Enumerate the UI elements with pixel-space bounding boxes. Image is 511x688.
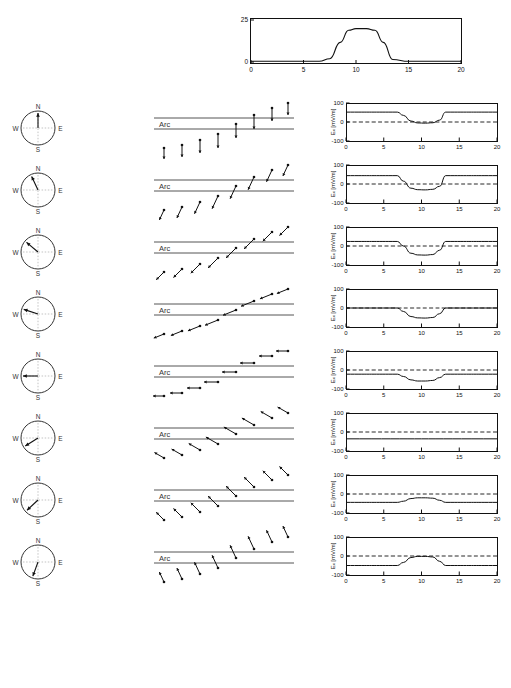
efield-ytick: 0 (340, 305, 344, 311)
field-vector (171, 330, 183, 336)
arc-arrow-panel: Arc (150, 158, 300, 220)
field-vector (172, 449, 184, 456)
efield-xtick: 0 (344, 268, 348, 274)
field-vector (187, 387, 201, 390)
efield-ylabel: Eₓ [mV/m] (330, 294, 336, 321)
efield-ytick: 100 (333, 472, 344, 478)
efield-ytick: -100 (331, 324, 344, 330)
conductance-chart-svg: 25005101520 (250, 18, 462, 80)
figure-row: NSEWArc-100010005101520Eₓ [mV/m] (0, 530, 511, 592)
top-chart-ytick: 0 (244, 58, 248, 65)
field-vector (188, 325, 201, 332)
mid-panel: Arc (150, 96, 300, 158)
efield-ytick: 0 (340, 491, 344, 497)
field-vector (242, 418, 255, 426)
compass-label-west: W (12, 373, 19, 380)
efield-xtick: 10 (418, 454, 425, 460)
efield-xtick: 5 (382, 206, 386, 212)
compass-label-north: N (36, 289, 41, 296)
field-vector (174, 509, 184, 519)
top-chart-xtick: 15 (405, 66, 413, 73)
field-vector (276, 350, 289, 353)
compass-arrow (32, 176, 38, 190)
efield-ytick: -100 (331, 262, 344, 268)
field-vector (271, 107, 274, 121)
compass-arrow (32, 562, 38, 576)
efield-xtick: 20 (494, 454, 501, 460)
efield-ylabel: Eₓ [mV/m] (330, 356, 336, 383)
efield-ytick: 0 (340, 243, 344, 249)
compass-label-south: S (36, 146, 41, 153)
efield-chart: -100010005101520Eₓ [mV/m] (330, 412, 505, 466)
field-vector (277, 288, 289, 294)
right-chart-wrapper: -100010005101520Eₓ [mV/m] (330, 102, 485, 142)
conductance-chart: 25005101520 (250, 18, 462, 64)
efield-ytick: -100 (331, 510, 344, 516)
compass-label-south: S (36, 580, 41, 587)
compass-label-north: N (36, 475, 41, 482)
arc-label: Arc (159, 120, 171, 129)
efield-ylabel: Eₓ [mV/m] (330, 418, 336, 445)
efield-chart: -100010005101520Eₓ [mV/m] (330, 350, 505, 404)
arc-label: Arc (159, 244, 171, 253)
field-vector (241, 300, 255, 307)
figure-row: NSEWArc-100010005101520Eₓ [mV/m] (0, 406, 511, 468)
efield-xtick: 10 (418, 330, 425, 336)
efield-ytick: -100 (331, 386, 344, 392)
efield-xtick: 15 (456, 454, 463, 460)
arc-label: Arc (159, 368, 171, 377)
efield-ylabel: Eₓ [mV/m] (330, 108, 336, 135)
efield-xtick: 15 (456, 206, 463, 212)
efield-xtick: 0 (344, 206, 348, 212)
field-vector (170, 392, 183, 395)
plot-frame (347, 166, 498, 204)
compass-label-east: E (58, 311, 63, 318)
compass-label-south: S (36, 518, 41, 525)
efield-xtick: 10 (418, 268, 425, 274)
top-chart-xtick: 5 (302, 66, 306, 73)
compass-wrapper: NSEW (12, 164, 64, 216)
compass-label-north: N (36, 165, 41, 172)
efield-xtick: 20 (494, 330, 501, 336)
efield-chart: -100010005101520Eₓ [mV/m] (330, 536, 505, 590)
field-vector (189, 444, 202, 452)
field-vector (261, 412, 274, 420)
top-chart-xtick: 10 (352, 66, 360, 73)
figure-row: NSEWArc-100010005101520Eₓ [mV/m] (0, 220, 511, 282)
compass-label-east: E (58, 435, 63, 442)
field-vector (204, 381, 219, 384)
right-chart-wrapper: -100010005101520Eₓ [mV/m] (330, 474, 485, 514)
field-vector (263, 471, 273, 481)
field-vector (177, 568, 184, 580)
field-vector (208, 496, 219, 507)
right-chart-wrapper: -100010005101520Eₓ [mV/m] (330, 412, 485, 452)
figure-root: 25005101520 NSEWArc-100010005101520Eₓ [m… (0, 0, 511, 688)
compass-arrow (27, 500, 38, 510)
field-vector (156, 271, 165, 280)
efield-xtick: 15 (456, 516, 463, 522)
right-chart-wrapper: -100010005101520Eₓ [mV/m] (330, 536, 485, 576)
plot-frame (347, 104, 498, 142)
plot-frame (347, 476, 498, 514)
compass-rose: NSEW (12, 474, 64, 526)
right-chart-wrapper: -100010005101520Eₓ [mV/m] (330, 288, 485, 328)
plot-frame (347, 228, 498, 266)
field-vector (248, 176, 255, 190)
field-vector (217, 133, 220, 148)
compass-label-south: S (36, 208, 41, 215)
mid-panel: Arc (150, 158, 300, 220)
compass-label-north: N (36, 103, 41, 110)
field-vector (259, 355, 273, 358)
field-vector (199, 139, 202, 153)
compass-wrapper: NSEW (12, 288, 64, 340)
efield-xtick: 20 (494, 268, 501, 274)
mid-panel: Arc (150, 344, 300, 406)
efield-ytick: 100 (333, 162, 344, 168)
field-vector (191, 263, 201, 273)
efield-ytick: -100 (331, 138, 344, 144)
efield-ytick: 100 (333, 348, 344, 354)
efield-chart: -100010005101520Eₓ [mV/m] (330, 164, 505, 218)
compass-rose: NSEW (12, 288, 64, 340)
arc-label: Arc (159, 430, 171, 439)
efield-xtick: 15 (456, 330, 463, 336)
